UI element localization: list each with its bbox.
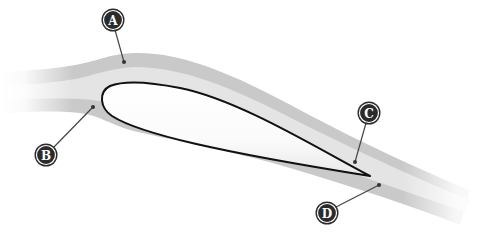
airfoil-diagram: A B C D [0,0,490,245]
label-b: B [41,149,51,163]
label-c: C [364,107,374,121]
label-a: A [107,14,118,28]
anchor-dot-c [353,160,357,164]
anchor-dot-b [91,105,95,109]
anchor-dot-a [122,60,126,64]
anchor-dot-d [377,183,381,187]
label-d: D [322,207,332,221]
